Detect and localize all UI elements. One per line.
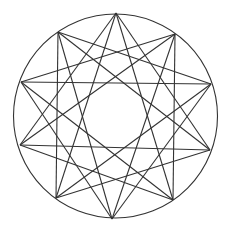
- chord-line: [56, 84, 211, 198]
- chord-line: [112, 34, 175, 219]
- chord-line: [20, 145, 210, 150]
- chord-line: [20, 34, 175, 145]
- chord-line: [21, 82, 211, 84]
- star-chords: [20, 13, 211, 219]
- chord-line: [20, 145, 173, 200]
- chord-line: [112, 84, 211, 219]
- chord-line: [21, 82, 173, 200]
- chord-line: [21, 34, 175, 82]
- chord-line: [56, 13, 116, 198]
- chord-line: [116, 13, 210, 150]
- chord-line: [173, 34, 175, 200]
- diagram-canvas: [0, 0, 227, 238]
- chord-line: [58, 32, 210, 150]
- star-polygon-diagram: [0, 0, 227, 238]
- chord-line: [20, 13, 116, 145]
- chord-line: [56, 32, 58, 198]
